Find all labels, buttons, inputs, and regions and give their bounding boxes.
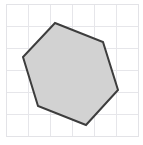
geometry-figure (0, 0, 143, 145)
figure-canvas (0, 0, 143, 145)
